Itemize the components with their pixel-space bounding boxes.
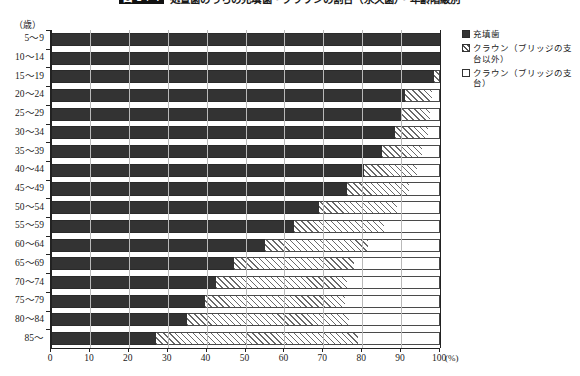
x-axis-tick-label: 100 — [432, 353, 446, 363]
y-axis-tick-label: 35～39 — [15, 147, 44, 157]
bar-segment-crown-non-abutment — [265, 239, 368, 252]
x-axis-tick — [128, 348, 129, 352]
bar-segment-crown-non-abutment — [347, 182, 409, 195]
y-axis-tick-label: 40～44 — [15, 165, 44, 175]
bar-segment-fill-tooth — [51, 220, 294, 233]
y-axis-tick — [46, 329, 50, 330]
x-axis-tick-label: 20 — [123, 353, 133, 363]
bar-segment-fill-tooth — [51, 276, 216, 289]
bar-segment-crown-non-abutment — [401, 108, 430, 121]
gridline-60 — [284, 30, 285, 348]
gridline-0 — [51, 30, 52, 348]
y-axis-tick-label: 45～49 — [15, 184, 44, 194]
title-text: 処置歯のうちの充填歯・クラウンの割合（永久歯）・年齢階級別 — [170, 0, 461, 5]
bar-segment-crown-abutment — [345, 295, 440, 308]
bar-segment-crown-non-abutment — [294, 220, 383, 233]
y-axis-tick-label: 5～9 — [25, 34, 45, 44]
y-axis-tick — [46, 198, 50, 199]
x-axis-unit-label: (%) — [445, 353, 459, 363]
bar-segment-crown-abutment — [397, 201, 440, 214]
x-axis-tick-label: 80 — [356, 353, 366, 363]
bar-segment-crown-abutment — [358, 332, 440, 345]
x-axis-tick — [361, 348, 362, 352]
x-axis-tick — [322, 348, 323, 352]
legend-item-crown-non-abutment: クラウン（ブリッジの支台以外） — [462, 43, 578, 64]
legend-item-crown-abutment: クラウン（ブリッジの支台） — [462, 68, 578, 89]
y-axis-tick — [46, 67, 50, 68]
bar-segment-crown-non-abutment — [319, 201, 397, 214]
x-axis-tick — [283, 348, 284, 352]
gridline-80 — [362, 30, 363, 348]
bar-segment-crown-abutment — [354, 257, 440, 270]
bar-segment-fill-tooth — [51, 201, 319, 214]
y-axis-tick — [46, 254, 50, 255]
bar-segment-crown-non-abutment — [234, 257, 355, 270]
x-axis-tick — [206, 348, 207, 352]
bar-segment-crown-non-abutment — [364, 164, 417, 177]
bar-segment-crown-abutment — [417, 164, 440, 177]
bar-segment-fill-tooth — [51, 239, 265, 252]
y-axis-tick — [46, 217, 50, 218]
gridline-20 — [129, 30, 130, 348]
gridline-50 — [246, 30, 247, 348]
bar-segment-crown-abutment — [432, 89, 440, 102]
bar-segment-crown-non-abutment — [216, 276, 346, 289]
y-axis-tick — [46, 273, 50, 274]
y-axis-tick-label: 20～24 — [15, 90, 44, 100]
y-axis-tick — [46, 105, 50, 106]
x-axis-tick-label: 50 — [240, 353, 250, 363]
y-axis-tick-label: 10～14 — [15, 53, 44, 63]
bar-segment-fill-tooth — [51, 70, 434, 83]
x-axis-tick-label: 30 — [162, 353, 172, 363]
x-axis-tick-label: 90 — [395, 353, 405, 363]
x-axis-tick-label: 10 — [84, 353, 94, 363]
y-axis-tick-label: 70～74 — [15, 278, 44, 288]
y-axis-tick — [46, 236, 50, 237]
x-axis-tick — [89, 348, 90, 352]
x-axis-tick-label: 60 — [279, 353, 289, 363]
x-axis-tick — [50, 348, 51, 352]
bar-segment-fill-tooth — [51, 182, 347, 195]
y-axis-tick-label: 50～54 — [15, 203, 44, 213]
x-axis-tick — [167, 348, 168, 352]
y-axis-tick — [46, 30, 50, 31]
y-axis-tick-label: 80～84 — [15, 315, 44, 325]
y-axis-tick — [46, 86, 50, 87]
bar-segment-crown-abutment — [428, 126, 440, 139]
y-axis-tick-label: 15～19 — [15, 72, 44, 82]
y-axis-tick-label: 30～34 — [15, 128, 44, 138]
gridline-100 — [440, 30, 441, 348]
bar-segment-crown-abutment — [347, 276, 440, 289]
y-axis-tick-label: 55～59 — [15, 221, 44, 231]
bar-segment-crown-abutment — [422, 145, 440, 158]
bar-segment-fill-tooth — [51, 89, 405, 102]
y-axis-tick — [46, 161, 50, 162]
legend-swatch-icon — [462, 30, 470, 38]
gridline-40 — [207, 30, 208, 348]
y-axis-unit-label: （歳） — [14, 18, 41, 31]
legend-label: クラウン（ブリッジの支台） — [473, 68, 578, 89]
y-axis-tick — [46, 142, 50, 143]
gridline-90 — [401, 30, 402, 348]
bar-segment-crown-abutment — [368, 239, 440, 252]
y-axis-tick — [46, 180, 50, 181]
gridline-30 — [168, 30, 169, 348]
bar-segment-crown-non-abutment — [405, 89, 432, 102]
bar-segment-crown-non-abutment — [156, 332, 358, 345]
legend-swatch-icon — [462, 44, 470, 52]
bar-segment-fill-tooth — [51, 332, 156, 345]
bar-segment-crown-abutment — [409, 182, 440, 195]
y-axis-tick-label: 75～79 — [15, 296, 44, 306]
bar-segment-crown-non-abutment — [187, 313, 348, 326]
bar-segment-fill-tooth — [51, 126, 395, 139]
legend-item-fill-tooth: 充填歯 — [462, 29, 578, 39]
y-axis-tick-label: 85～ — [25, 334, 45, 344]
chart-figure: 図 2-7-4 処置歯のうちの充填歯・クラウンの割合（永久歯）・年齢階級別 （歳… — [0, 0, 580, 376]
bar-segment-fill-tooth — [51, 108, 401, 121]
legend-swatch-icon — [462, 69, 470, 77]
bar-segment-crown-abutment — [430, 108, 440, 121]
legend-label: クラウン（ブリッジの支台以外） — [473, 43, 578, 64]
gridline-10 — [90, 30, 91, 348]
y-axis-tick — [46, 292, 50, 293]
y-axis-tick — [46, 124, 50, 125]
